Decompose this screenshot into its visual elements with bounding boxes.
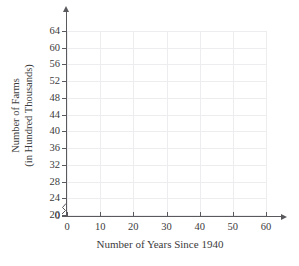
y-axis-tick-label: 48 bbox=[38, 93, 60, 104]
x-axis-tick bbox=[100, 212, 101, 217]
y-axis-tick bbox=[62, 131, 67, 132]
y-axis-title-line-2: (in Hundred Thousands) bbox=[22, 64, 35, 166]
x-axis-tick bbox=[67, 212, 68, 217]
y-axis-tick bbox=[62, 148, 67, 149]
gridline-vertical bbox=[200, 31, 201, 215]
y-axis-tick-label: 64 bbox=[38, 26, 60, 37]
x-axis-tick bbox=[133, 212, 134, 217]
x-axis-tick-label: 40 bbox=[187, 221, 213, 232]
x-axis-title: Number of Years Since 1940 bbox=[40, 238, 280, 251]
x-axis-line bbox=[66, 216, 283, 217]
y-axis-tick bbox=[62, 115, 67, 116]
y-axis-tick bbox=[62, 98, 67, 99]
x-axis-tick-label: 0 bbox=[54, 221, 80, 232]
x-axis-tick bbox=[233, 212, 234, 217]
y-axis-tick-label: 24 bbox=[38, 193, 60, 204]
x-axis-tick-label: 20 bbox=[120, 221, 146, 232]
x-axis-tick-label: 10 bbox=[87, 221, 113, 232]
y-axis-tick-label: 52 bbox=[38, 76, 60, 87]
y-axis-tick bbox=[62, 198, 67, 199]
gridline-vertical bbox=[167, 31, 168, 215]
y-axis-tick-label: 36 bbox=[38, 143, 60, 154]
x-axis-tick-label: 50 bbox=[220, 221, 246, 232]
y-axis-arrow-icon bbox=[63, 6, 69, 12]
gridline-vertical bbox=[133, 31, 134, 215]
x-axis-tick bbox=[266, 212, 267, 217]
y-axis-tick bbox=[62, 64, 67, 65]
y-axis-tick bbox=[62, 165, 67, 166]
y-axis-tick-label: 32 bbox=[38, 160, 60, 171]
y-axis-tick-label: 44 bbox=[38, 110, 60, 121]
y-axis-tick bbox=[62, 182, 67, 183]
y-axis-tick-label: 20 bbox=[38, 210, 60, 221]
gridline-vertical bbox=[233, 31, 234, 215]
x-axis-tick bbox=[200, 212, 201, 217]
x-axis-tick-label: 30 bbox=[154, 221, 180, 232]
y-axis-tick-label: 28 bbox=[38, 177, 60, 188]
x-axis-arrow-icon bbox=[281, 214, 287, 220]
y-axis-tick bbox=[62, 48, 67, 49]
y-axis-title-line-1: Number of Farms bbox=[10, 64, 23, 166]
y-axis-tick-label: 40 bbox=[38, 126, 60, 137]
plot-area bbox=[67, 31, 266, 215]
y-axis-tick-label: 56 bbox=[38, 59, 60, 70]
x-axis-tick-label: 60 bbox=[253, 221, 279, 232]
gridline-vertical bbox=[100, 31, 101, 215]
gridline-vertical bbox=[266, 31, 267, 215]
y-axis-tick bbox=[62, 31, 67, 32]
chart-container: Number of Farms (in Hundred Thousands) 0… bbox=[0, 0, 299, 266]
x-axis-tick bbox=[167, 212, 168, 217]
y-axis-tick bbox=[62, 81, 67, 82]
y-axis-tick-label: 60 bbox=[38, 43, 60, 54]
